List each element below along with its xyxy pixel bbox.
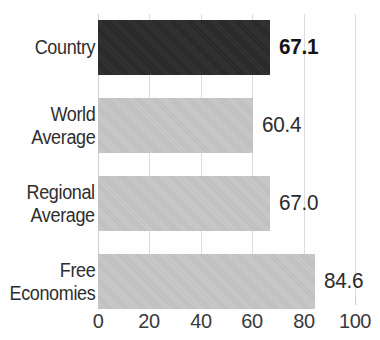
bar-country xyxy=(98,20,271,75)
tick-label-80: 80 xyxy=(293,309,314,333)
value-label-country: 67.1 xyxy=(279,34,318,60)
bar-free-economies xyxy=(98,254,316,309)
category-label-line: Average xyxy=(31,126,95,149)
bar-row: 67.1 xyxy=(98,20,356,75)
tick-0 xyxy=(98,297,99,305)
tick-20 xyxy=(149,297,150,305)
tick-100 xyxy=(355,297,356,305)
value-label-world-average: 60.4 xyxy=(262,112,301,138)
category-label-free-economies: FreeEconomies xyxy=(9,259,95,305)
bar-regional-average xyxy=(98,176,271,231)
value-label-regional-average: 67.0 xyxy=(279,190,318,216)
tick-label-40: 40 xyxy=(190,309,211,333)
category-label-regional-average: RegionalAverage xyxy=(27,181,95,227)
category-label-line: Country xyxy=(34,36,95,59)
tick-label-0: 0 xyxy=(92,309,103,333)
tick-label-60: 60 xyxy=(241,309,262,333)
category-label-line: Regional xyxy=(27,181,95,204)
plot-area: 67.160.467.084.6 xyxy=(98,14,356,297)
category-label-line: Economies xyxy=(9,282,95,305)
tick-80 xyxy=(304,297,305,305)
bar-row: 84.6 xyxy=(98,254,356,309)
bar-row: 67.0 xyxy=(98,176,356,231)
category-label-world-average: WorldAverage xyxy=(31,103,95,149)
tick-label-100: 100 xyxy=(339,309,371,333)
category-label-line: Average xyxy=(27,204,95,227)
bar-world-average xyxy=(98,98,254,153)
bar-row: 60.4 xyxy=(98,98,356,153)
tick-40 xyxy=(201,297,202,305)
tick-label-20: 20 xyxy=(138,309,159,333)
value-label-free-economies: 84.6 xyxy=(324,268,363,294)
category-label-line: World xyxy=(31,103,95,126)
tick-60 xyxy=(252,297,253,305)
category-label-country: Country xyxy=(34,36,95,59)
gridline-100 xyxy=(355,14,356,305)
horizontal-bar-chart: 67.160.467.084.6 CountryWorldAverageRegi… xyxy=(0,0,380,340)
category-label-line: Free xyxy=(9,259,95,282)
